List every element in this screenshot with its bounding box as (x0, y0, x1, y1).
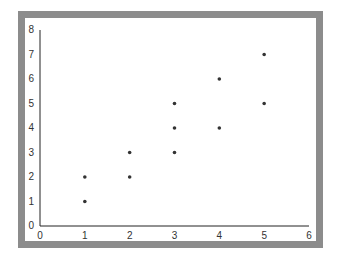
data-point (173, 126, 177, 130)
x-axis-ticks: 0123456 (37, 230, 312, 241)
x-tick-label: 6 (306, 230, 312, 241)
y-tick-label: 0 (28, 220, 34, 231)
y-tick-label: 6 (28, 73, 34, 84)
y-tick-label: 2 (28, 171, 34, 182)
data-point (128, 175, 132, 179)
y-tick-label: 4 (28, 122, 34, 133)
x-tick-label: 5 (261, 230, 267, 241)
data-point (83, 200, 87, 204)
data-point (262, 102, 266, 106)
x-tick-label: 3 (172, 230, 178, 241)
data-point (262, 53, 266, 57)
y-tick-label: 3 (28, 147, 34, 158)
data-point (173, 151, 177, 155)
x-tick-label: 0 (37, 230, 43, 241)
y-tick-label: 7 (28, 49, 34, 60)
x-tick-label: 1 (82, 230, 88, 241)
y-tick-label: 5 (28, 98, 34, 109)
data-point (128, 151, 132, 155)
data-point (173, 102, 177, 106)
data-point (218, 126, 222, 130)
y-tick-label: 8 (28, 24, 34, 35)
y-axis-ticks: 012345678 (28, 24, 34, 231)
data-point (83, 175, 87, 179)
x-tick-label: 4 (217, 230, 223, 241)
y-tick-label: 1 (28, 196, 34, 207)
data-points (83, 53, 266, 204)
x-tick-label: 2 (127, 230, 133, 241)
data-point (218, 77, 222, 81)
scatter-plot: 0123456 012345678 (0, 0, 342, 266)
